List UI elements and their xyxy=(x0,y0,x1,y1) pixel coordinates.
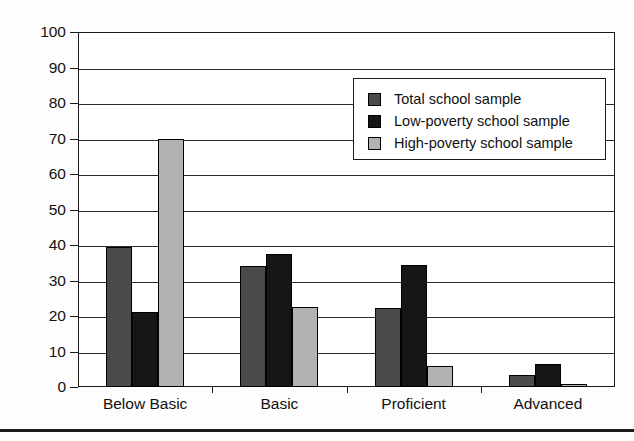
bar-advanced-low-poverty-school-sample xyxy=(535,364,561,387)
legend-swatch-icon-1 xyxy=(368,115,381,128)
legend-swatch-icon-2 xyxy=(368,137,381,150)
y-tick-60 xyxy=(70,174,78,175)
x-tick-label-advanced: Advanced xyxy=(481,396,615,412)
y-tick-label-10: 10 xyxy=(18,344,66,360)
x-tick-label-below-basic: Below Basic xyxy=(78,396,212,412)
y-tick-label-70: 70 xyxy=(18,131,66,147)
y-tick-label-50: 50 xyxy=(18,202,66,218)
bar-below-basic-high-poverty-school-sample xyxy=(158,139,184,388)
y-tick-80 xyxy=(70,103,78,104)
y-tick-label-30: 30 xyxy=(18,273,66,289)
chart-legend: Total school sampleLow-poverty school sa… xyxy=(353,78,606,160)
y-tick-10 xyxy=(70,352,78,353)
y-tick-label-60: 60 xyxy=(18,166,66,182)
legend-label-0: Total school sample xyxy=(394,92,521,107)
legend-label-1: Low-poverty school sample xyxy=(394,114,570,129)
x-tick-3 xyxy=(481,387,482,393)
bar-below-basic-total-school-sample xyxy=(106,247,132,387)
y-tick-100 xyxy=(70,32,78,33)
y-tick-label-0: 0 xyxy=(18,379,66,395)
legend-item-0: Total school sample xyxy=(368,88,605,110)
y-tick-label-40: 40 xyxy=(18,237,66,253)
x-tick-2 xyxy=(347,387,348,393)
bar-proficient-high-poverty-school-sample xyxy=(427,366,453,387)
y-tick-label-20: 20 xyxy=(18,308,66,324)
bar-basic-high-poverty-school-sample xyxy=(292,307,318,387)
y-tick-label-100: 100 xyxy=(18,24,66,40)
y-tick-label-90: 90 xyxy=(18,60,66,76)
bar-chart-figure: 0102030405060708090100 Below BasicBasicP… xyxy=(0,0,634,441)
y-tick-70 xyxy=(70,139,78,140)
bar-basic-total-school-sample xyxy=(240,266,266,387)
legend-label-2: High-poverty school sample xyxy=(394,136,573,151)
bar-below-basic-low-poverty-school-sample xyxy=(132,312,158,387)
y-tick-90 xyxy=(70,68,78,69)
bar-advanced-total-school-sample xyxy=(509,375,535,387)
y-tick-40 xyxy=(70,245,78,246)
bar-proficient-low-poverty-school-sample xyxy=(401,265,427,387)
bar-advanced-high-poverty-school-sample xyxy=(561,384,587,387)
legend-item-2: High-poverty school sample xyxy=(368,132,605,154)
x-tick-1 xyxy=(212,387,213,393)
y-tick-50 xyxy=(70,210,78,211)
y-tick-30 xyxy=(70,281,78,282)
bar-basic-low-poverty-school-sample xyxy=(266,254,292,387)
bottom-divider xyxy=(0,429,634,432)
y-tick-0 xyxy=(70,387,78,388)
y-tick-20 xyxy=(70,316,78,317)
x-tick-label-proficient: Proficient xyxy=(347,396,481,412)
y-tick-label-80: 80 xyxy=(18,95,66,111)
legend-item-1: Low-poverty school sample xyxy=(368,110,605,132)
bar-proficient-total-school-sample xyxy=(375,308,401,387)
x-tick-label-basic: Basic xyxy=(212,396,346,412)
legend-swatch-icon-0 xyxy=(368,93,381,106)
